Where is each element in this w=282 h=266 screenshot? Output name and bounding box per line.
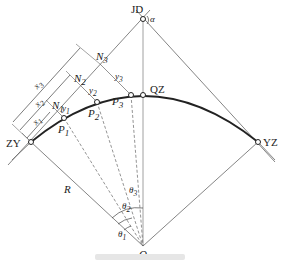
label-r: R (64, 184, 71, 195)
point-jd (141, 17, 146, 22)
label-theta1: θ1 (118, 230, 126, 241)
label-jd: JD (131, 4, 143, 15)
point-zy (29, 140, 34, 145)
label-p2: P2 (88, 108, 99, 122)
radius-yz (143, 142, 258, 246)
label-p1: P1 (58, 124, 69, 138)
radius-p1 (64, 118, 143, 246)
point-p2 (95, 100, 100, 105)
label-theta2: θ2 (122, 202, 130, 213)
point-qz (141, 93, 146, 98)
label-alpha: α (150, 15, 155, 24)
point-yz (256, 140, 261, 145)
label-theta3: θ3 (129, 186, 137, 197)
point-p3 (129, 93, 134, 98)
dim-x3 (13, 48, 80, 122)
point-p1 (62, 116, 67, 121)
radius-p3 (131, 95, 143, 246)
curve-diagram (0, 0, 282, 266)
figure-caption (95, 254, 185, 260)
label-yz: YZ (263, 137, 278, 148)
label-p3: P3 (112, 96, 123, 110)
label-y1: y1 (62, 104, 70, 115)
label-n2: N2 (74, 73, 86, 87)
label-n3: N3 (96, 51, 108, 65)
label-y2: y2 (89, 86, 97, 97)
label-y3: y3 (115, 72, 123, 83)
label-zy: ZY (6, 138, 21, 149)
label-qz: QZ (150, 84, 165, 95)
